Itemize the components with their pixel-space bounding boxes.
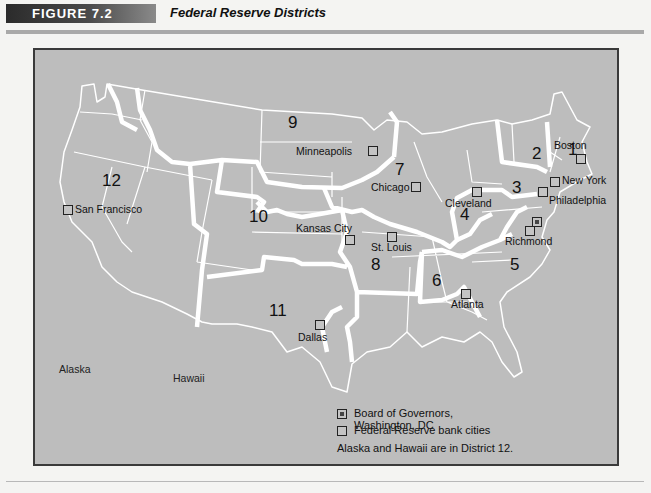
figure-title: Federal Reserve Districts	[170, 5, 326, 20]
city-marker-kansas-city	[345, 235, 355, 245]
legend-bank-row: Federal Reserve bank cities	[337, 424, 513, 441]
legend-bank-label: Federal Reserve bank cities	[354, 424, 490, 436]
city-marker-boston	[576, 154, 586, 164]
legend-note: Alaska and Hawaii are in District 12.	[337, 442, 513, 454]
city-label-cleveland: Cleveland	[445, 197, 492, 209]
district-number-8: 8	[371, 255, 380, 275]
district-number-5: 5	[510, 255, 519, 275]
figure-label: FIGURE 7.2	[32, 6, 113, 21]
district-number-12: 12	[102, 171, 121, 191]
district-number-10: 10	[249, 207, 268, 227]
district-number-3: 3	[512, 178, 521, 198]
city-label-boston: Boston	[554, 139, 587, 151]
city-label-san-francisco: San Francisco	[75, 203, 142, 215]
city-label-st-louis: St. Louis	[371, 241, 412, 253]
city-marker-san-francisco	[63, 205, 73, 215]
city-marker-minneapolis	[368, 146, 378, 156]
city-label-dallas: Dallas	[298, 331, 327, 343]
district-number-7: 7	[395, 160, 404, 180]
city-marker-philadelphia	[538, 187, 548, 197]
district-number-9: 9	[288, 113, 297, 133]
city-marker-dallas	[315, 320, 325, 330]
map-legend: Board of Governors, Washington, DC Feder…	[337, 407, 513, 454]
city-marker-chicago	[411, 182, 421, 192]
city-label-philadelphia: Philadelphia	[549, 194, 606, 206]
us-map-svg	[35, 50, 617, 464]
district-number-6: 6	[432, 271, 441, 291]
city-label-richmond: Richmond	[505, 235, 552, 247]
alaska-label: Alaska	[59, 363, 91, 375]
figure-label-tag: FIGURE 7.2	[6, 4, 156, 23]
bottom-divider	[6, 481, 644, 482]
city-label-minneapolis: Minneapolis	[296, 145, 352, 157]
board-of-governors-legend-icon	[337, 409, 347, 419]
bank-city-legend-icon	[337, 426, 347, 436]
district-number-11: 11	[269, 301, 287, 321]
city-label-chicago: Chicago	[371, 181, 410, 193]
district-number-2: 2	[532, 144, 541, 164]
city-label-new-york: New York	[562, 174, 606, 186]
legend-board-row: Board of Governors, Washington, DC	[337, 407, 513, 424]
city-label-kansas-city: Kansas City	[296, 222, 352, 234]
map-frame: 1 2 3 4 5 6 7 8 9 10 11 12 Boston New Yo…	[33, 48, 619, 466]
city-label-atlanta: Atlanta	[451, 298, 484, 310]
top-divider	[6, 30, 644, 34]
city-marker-new-york	[550, 177, 560, 187]
city-marker-cleveland	[472, 187, 482, 197]
hawaii-label: Hawaii	[173, 372, 205, 384]
